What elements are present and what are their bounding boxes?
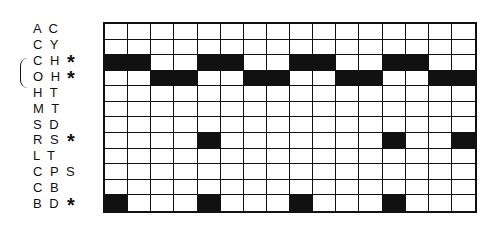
grid-cell <box>128 133 151 149</box>
grid-cell <box>290 71 313 87</box>
grid-cell <box>151 40 174 56</box>
grid-cell <box>406 195 429 211</box>
grid-cell <box>452 55 475 71</box>
grid-cell <box>174 180 197 196</box>
grid-cell <box>244 133 267 149</box>
grid-cell <box>198 55 221 71</box>
grid-cell <box>452 133 475 149</box>
grid-cell <box>336 102 359 118</box>
row-label-lt: L T <box>33 148 57 164</box>
row-code: M T <box>33 101 61 117</box>
grid-cell <box>313 195 336 211</box>
grid-cell <box>151 149 174 165</box>
grid-cell <box>359 55 382 71</box>
grid-cell <box>221 149 244 165</box>
grid-cell <box>174 149 197 165</box>
grid-cell <box>429 149 452 165</box>
grid-cell <box>313 180 336 196</box>
row-code: L T <box>33 148 57 164</box>
grid-cell <box>198 71 221 87</box>
grid-cell <box>429 40 452 56</box>
grid-cell <box>267 55 290 71</box>
grid-cell <box>105 71 128 87</box>
grid-cell <box>406 102 429 118</box>
grid-cell <box>221 164 244 180</box>
grid-cell <box>128 40 151 56</box>
grid-cell <box>105 55 128 71</box>
grid-cell <box>244 24 267 40</box>
grid-cell <box>359 195 382 211</box>
grid-cell <box>452 180 475 196</box>
asterisk-icon: * <box>67 68 77 88</box>
grid-cell <box>406 133 429 149</box>
grid-cell <box>336 86 359 102</box>
row-code: C Y <box>33 37 60 53</box>
grid-cell <box>267 195 290 211</box>
grid-cell <box>267 149 290 165</box>
grid-cell <box>452 195 475 211</box>
grid-cell <box>105 180 128 196</box>
grid-cell <box>290 40 313 56</box>
grid-cell <box>221 195 244 211</box>
grid-cell <box>151 86 174 102</box>
grid-cell <box>359 86 382 102</box>
row-code: H T <box>33 85 60 101</box>
grid-cell <box>221 40 244 56</box>
grid-cell <box>267 86 290 102</box>
grid-cell <box>151 55 174 71</box>
grid-cell <box>174 102 197 118</box>
grid-cell <box>151 180 174 196</box>
grid-cell <box>359 133 382 149</box>
grid-cell <box>151 71 174 87</box>
grid-cell <box>174 195 197 211</box>
grid-cell <box>336 40 359 56</box>
grid-cell <box>383 40 406 56</box>
row-label-ch: C H* <box>33 53 61 69</box>
grid-cell <box>128 164 151 180</box>
grid-cell <box>221 24 244 40</box>
grid-cell <box>198 133 221 149</box>
grid-cell <box>174 55 197 71</box>
grid-cell <box>105 24 128 40</box>
grid-cell <box>290 117 313 133</box>
grid-cell <box>429 102 452 118</box>
grid-cell <box>198 24 221 40</box>
grid-cell <box>267 180 290 196</box>
row-label-cb: C B <box>33 180 61 196</box>
grid-cell <box>174 164 197 180</box>
row-label-sd: S D <box>33 117 61 133</box>
grid-cell <box>383 24 406 40</box>
grid-cell <box>128 195 151 211</box>
row-label-mt: M T <box>33 101 61 117</box>
grid-cell <box>267 133 290 149</box>
grid-cell <box>406 180 429 196</box>
grid-cell <box>290 180 313 196</box>
grid-cell <box>336 71 359 87</box>
grid-cell <box>105 102 128 118</box>
grid-cell <box>105 86 128 102</box>
grid-cell <box>406 117 429 133</box>
grid-cell <box>198 117 221 133</box>
grid-cell <box>221 55 244 71</box>
grid-cell <box>406 55 429 71</box>
grid-cell <box>336 164 359 180</box>
grid-cell <box>198 102 221 118</box>
grid-cell <box>452 102 475 118</box>
grid-cell <box>452 24 475 40</box>
grid-cell <box>452 149 475 165</box>
grid-cell <box>105 164 128 180</box>
grid-cell <box>105 195 128 211</box>
grid-cell <box>429 180 452 196</box>
row-code: C P S <box>33 164 77 180</box>
grid-cell <box>336 195 359 211</box>
grid-cell <box>290 55 313 71</box>
grid-cell <box>429 71 452 87</box>
row-label-cps: C P S <box>33 164 77 180</box>
grid-cell <box>383 117 406 133</box>
grid-cell <box>174 133 197 149</box>
grid-cell <box>221 133 244 149</box>
row-label-bd: B D* <box>33 196 61 212</box>
grid-cell <box>383 102 406 118</box>
grid-cell <box>267 102 290 118</box>
grid-cell <box>128 71 151 87</box>
